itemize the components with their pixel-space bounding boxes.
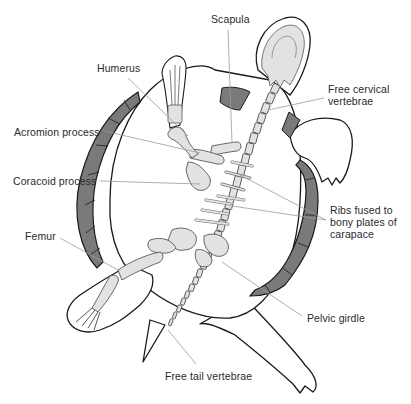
- label-humerus: Humerus: [97, 62, 140, 74]
- label-pelvic-girdle: Pelvic girdle: [307, 312, 365, 324]
- label-coracoid-process: Coracoid process: [13, 175, 96, 187]
- label-scapula: Scapula: [211, 13, 250, 25]
- label-ribs-fused: Ribs fused to bony plates of carapace: [330, 204, 397, 240]
- turtle-skeleton-diagram: [0, 0, 411, 404]
- leader-tail: [168, 330, 196, 364]
- label-free-cervical-vertebrae: Free cervical vertebrae: [328, 83, 389, 107]
- label-free-tail-vertebrae: Free tail vertebrae: [165, 370, 252, 382]
- label-acromion-process: Acromion process: [14, 126, 100, 138]
- label-femur: Femur: [25, 230, 56, 242]
